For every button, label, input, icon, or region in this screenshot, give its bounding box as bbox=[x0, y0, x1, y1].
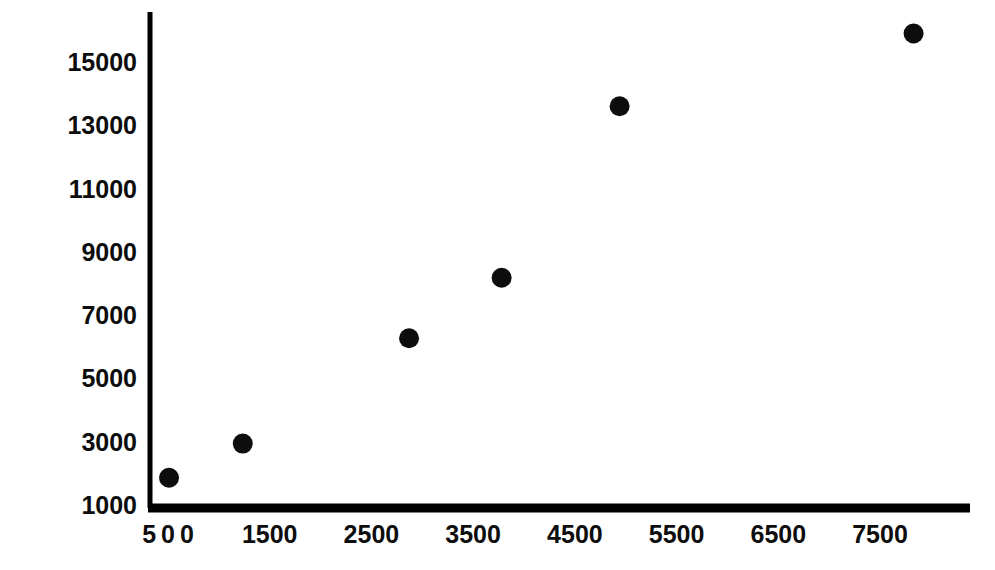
x-axis-tick-label: 1500 bbox=[242, 522, 298, 547]
x-axis-tick-label: 500 bbox=[137, 522, 199, 547]
x-axis-tick-label: 3500 bbox=[445, 522, 501, 547]
y-axis-tick-label: 9000 bbox=[81, 239, 137, 264]
data-point bbox=[159, 468, 179, 488]
x-axis-tick-label: 4500 bbox=[547, 522, 603, 547]
y-axis-tick-label: 5000 bbox=[81, 366, 137, 391]
y-axis-tick-label: 15000 bbox=[67, 50, 137, 75]
y-axis-tick-label: 7000 bbox=[81, 303, 137, 328]
x-axis-tick-label: 6500 bbox=[750, 522, 806, 547]
data-point bbox=[233, 434, 253, 454]
data-point bbox=[610, 96, 630, 116]
axes bbox=[148, 12, 970, 508]
data-point-group bbox=[159, 24, 924, 488]
data-point bbox=[904, 24, 924, 44]
data-point bbox=[492, 268, 512, 288]
x-axis-tick-label: 5500 bbox=[649, 522, 705, 547]
x-axis-tick-label: 7500 bbox=[852, 522, 908, 547]
y-axis-tick-label: 11000 bbox=[69, 176, 137, 201]
plot-area bbox=[0, 0, 995, 570]
x-axis-tick-label: 2500 bbox=[344, 522, 400, 547]
y-axis-tick-label: 3000 bbox=[81, 429, 137, 454]
y-axis-tick-label: 1000 bbox=[81, 493, 137, 518]
y-axis-tick-label: 13000 bbox=[67, 113, 137, 138]
data-point bbox=[399, 328, 419, 348]
scatter-chart: 10003000500070009000110001300015000 5001… bbox=[0, 0, 995, 570]
